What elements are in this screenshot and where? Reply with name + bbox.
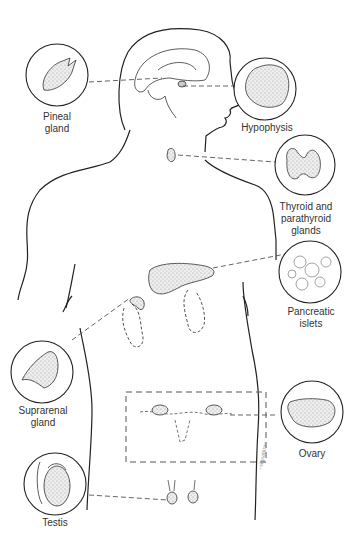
label-testis: Testis xyxy=(30,517,80,529)
label-thyroid: Thyroid and parathyroid glands xyxy=(270,201,342,237)
label-hypophysis: Hypophysis xyxy=(232,122,302,134)
adrenal-gland xyxy=(130,297,144,310)
testis-left xyxy=(167,492,177,504)
pancreas xyxy=(149,263,214,294)
kidney-right xyxy=(184,290,205,333)
label-ovary: Ovary xyxy=(290,448,334,460)
endocrine-diagram: ~signature~ xyxy=(0,0,351,545)
brain xyxy=(135,49,210,118)
pelvic-box xyxy=(126,392,266,462)
thyroid-small xyxy=(167,148,175,161)
kidney-left xyxy=(123,304,143,347)
label-suprarenal: Suprarenal gland xyxy=(6,405,80,429)
label-pineal: Pineal gland xyxy=(30,111,84,135)
uterus-ovaries xyxy=(140,405,232,442)
label-pancreas: Pancreatic islets xyxy=(276,306,346,330)
leader-lines xyxy=(72,78,296,500)
testis-right xyxy=(188,491,198,503)
